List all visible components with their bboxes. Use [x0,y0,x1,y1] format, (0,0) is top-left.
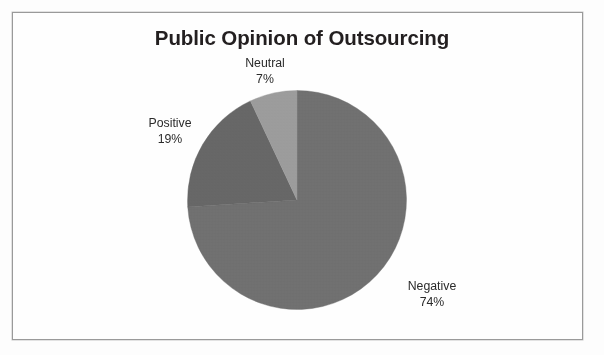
pie-label-neutral-name: Neutral [205,56,325,72]
pie-label-positive: Positive 19% [110,116,230,147]
chart-page: Public Opinion of Outsourcing Neutral 7%… [0,0,604,355]
pie-label-negative-value: 74% [372,295,492,311]
chart-title: Public Opinion of Outsourcing [0,26,604,50]
pie-label-neutral: Neutral 7% [205,56,325,87]
pie-label-negative-name: Negative [372,279,492,295]
pie-label-negative: Negative 74% [372,279,492,310]
pie-label-positive-name: Positive [110,116,230,132]
pie-label-positive-value: 19% [110,132,230,148]
pie-label-neutral-value: 7% [205,72,325,88]
